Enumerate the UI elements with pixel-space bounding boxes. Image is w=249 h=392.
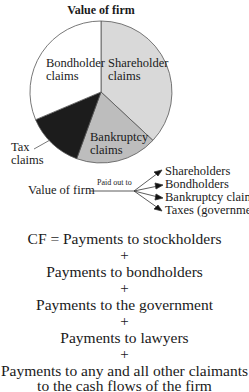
plus-sign: + <box>0 313 249 330</box>
plus-sign: + <box>0 346 249 363</box>
label-tax-claims: Tax claims <box>11 141 44 167</box>
label-line: claims <box>90 144 148 157</box>
label-line: claims <box>108 70 168 83</box>
label-bondholder-claims: Bondholder claims <box>46 57 105 83</box>
equation-line-lawyers: Payments to lawyers <box>0 329 249 346</box>
label-bankruptcy-claims: Bankruptcy claims <box>90 131 148 157</box>
plus-sign: + <box>0 247 249 264</box>
equation-line-cash-flows: to the cash flows of the firm <box>0 377 249 392</box>
label-shareholder-claims: Shareholder claims <box>108 57 168 83</box>
equation-line-stockholders: CF = Payments to stockholders <box>0 230 249 247</box>
arrowhead-icon <box>155 194 163 200</box>
flow-source: Value of firm <box>28 183 95 198</box>
flow-target-taxes: Taxes (government) <box>165 203 249 218</box>
plus-sign: + <box>0 280 249 297</box>
flow-edge-label: Paid out to <box>97 178 132 187</box>
arrowhead-icon <box>155 183 163 189</box>
label-line: claims <box>46 70 105 83</box>
label-line: claims <box>11 154 44 167</box>
equation-line-bondholders: Payments to bondholders <box>0 263 249 280</box>
equation-line-government: Payments to the government <box>0 296 249 313</box>
